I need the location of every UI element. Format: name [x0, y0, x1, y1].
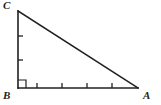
right-triangle-drawing [0, 0, 161, 105]
vertex-label-b: B [3, 90, 10, 101]
geometry-figure: C B A [0, 0, 161, 105]
side-ca-hypotenuse-line [18, 11, 138, 88]
right-angle-marker-icon [18, 80, 26, 88]
vertex-label-c: C [3, 0, 10, 11]
vertex-label-a: A [143, 90, 150, 101]
